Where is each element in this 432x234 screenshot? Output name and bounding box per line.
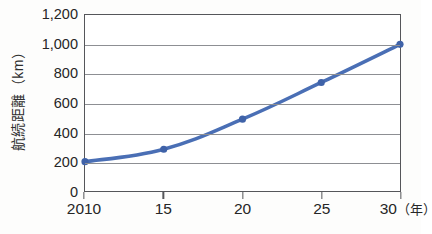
y-axis-tick-label: 800 (54, 66, 78, 81)
x-axis-tick-label: 15 (155, 201, 172, 217)
y-axis-tick-label: 1,000 (42, 36, 78, 51)
x-axis-tick-label: 20 (234, 201, 251, 217)
y-axis-tick-label: 600 (54, 96, 78, 111)
x-axis-tick-label: 2010 (67, 201, 101, 217)
x-axis-tick-mark (321, 192, 322, 199)
x-axis-tick-label: 25 (313, 201, 330, 217)
x-axis-tick-mark (163, 192, 164, 199)
x-axis-tick-mark (400, 192, 401, 199)
x-axis-tick-mark (242, 192, 243, 199)
data-point-marker (160, 146, 167, 153)
gridline (85, 45, 400, 46)
series-line (85, 44, 400, 161)
gridline (85, 163, 400, 164)
series-line-chart (85, 15, 400, 191)
gridline (85, 74, 400, 75)
y-axis-tick-label: 1,200 (42, 7, 78, 22)
x-axis: 201015202530（年） (84, 192, 401, 234)
y-axis-tick-labels: 02004006008001,0001,200 (26, 14, 82, 192)
y-axis-tick-label: 200 (54, 155, 78, 170)
data-point-marker (318, 79, 325, 86)
plot-area (84, 14, 401, 192)
gridline (85, 134, 400, 135)
y-axis-tick-label: 400 (54, 125, 78, 140)
y-axis-title-text: 航続距離（km） (7, 45, 27, 152)
gridline (85, 104, 400, 105)
x-axis-unit-label: （年） (397, 202, 432, 217)
x-axis-tick-label: 30（年） (380, 201, 432, 217)
x-axis-tick-mark (83, 192, 84, 199)
data-point-marker (239, 116, 246, 123)
y-axis-tick-label: 0 (70, 185, 78, 200)
